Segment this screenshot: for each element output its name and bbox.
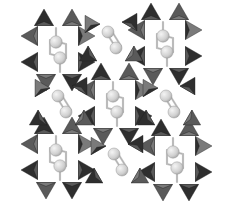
atom-sphere	[50, 144, 62, 156]
atom-sphere	[54, 52, 66, 64]
atom-sphere	[171, 162, 183, 174]
atom-sphere	[167, 146, 179, 158]
atom-sphere	[116, 164, 128, 176]
atom-sphere	[50, 36, 62, 48]
atom-sphere	[108, 148, 120, 160]
atom-sphere	[102, 26, 114, 38]
atom-sphere	[160, 90, 172, 102]
atom-sphere	[111, 106, 123, 118]
atom-sphere	[52, 90, 64, 102]
atom-sphere	[110, 42, 122, 54]
crystal-structure-diagram	[0, 0, 231, 219]
atom-sphere	[161, 46, 173, 58]
atom-layer	[50, 26, 183, 176]
atom-sphere	[107, 90, 119, 102]
atom-sphere	[168, 106, 180, 118]
atom-sphere	[60, 106, 72, 118]
structure-canvas	[0, 0, 231, 219]
atom-sphere	[157, 30, 169, 42]
atom-sphere	[54, 160, 66, 172]
